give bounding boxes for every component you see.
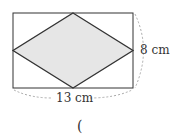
rhombus <box>13 13 133 88</box>
width-label: 13 cm <box>56 91 93 105</box>
width-dimension-arc-left <box>14 90 52 98</box>
diagram-figure <box>0 0 180 139</box>
height-label: 8 cm <box>140 43 170 57</box>
width-dimension-arc-right <box>90 90 132 98</box>
answer-paren: ( <box>77 118 82 134</box>
